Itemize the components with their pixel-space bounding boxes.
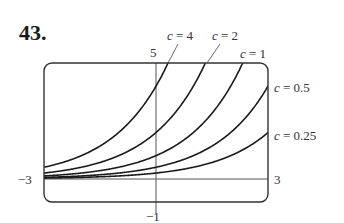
leader-line-c2 <box>207 44 220 63</box>
y-max-tick-label: 5 <box>150 45 157 60</box>
y-min-tick-label: −1 <box>146 209 160 223</box>
label-c-0.25: c = 0.25 <box>274 128 316 143</box>
x-max-tick-label: 3 <box>274 172 281 187</box>
leader-line-c4 <box>168 44 178 63</box>
label-c-2: c = 2 <box>212 28 238 43</box>
problem-number: 43. <box>19 20 47 45</box>
label-c-1: c = 1 <box>240 46 266 61</box>
label-c-4: c = 4 <box>167 28 194 43</box>
exponential-graph-figure: 43. 5 −1 −3 3 c = 4 c = 2 c = 1 c = 0.5 … <box>0 0 344 223</box>
label-c-0.5: c = 0.5 <box>274 80 310 95</box>
x-min-tick-label: −3 <box>18 172 32 187</box>
